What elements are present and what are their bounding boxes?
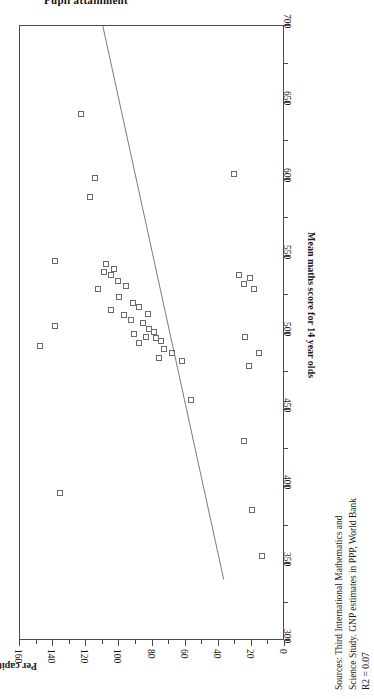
data-point — [115, 278, 121, 284]
score-tick-label: 700 — [282, 14, 292, 28]
gnp-minor-tick — [135, 640, 136, 644]
data-point — [156, 355, 162, 361]
data-point — [103, 261, 109, 267]
score-minor-tick — [284, 525, 288, 526]
data-point — [108, 272, 114, 278]
data-point — [136, 304, 142, 310]
data-point — [95, 286, 101, 292]
data-point — [236, 272, 242, 278]
sources-line-2: Science Study. GNP estimates in PPP, Wor… — [347, 498, 361, 690]
gnp-tick-label: 100 — [112, 649, 122, 663]
data-point — [52, 258, 58, 264]
score-minor-tick — [284, 602, 288, 603]
score-tick-label: 450 — [282, 398, 292, 412]
gnp-tick — [185, 640, 186, 646]
score-tick-label: 650 — [282, 91, 292, 105]
gnp-minor-tick — [69, 640, 70, 644]
score-minor-tick — [284, 294, 288, 295]
sources-line-3: R2 = 0.07 — [360, 498, 374, 690]
data-point — [37, 343, 43, 349]
data-point — [136, 340, 142, 346]
score-minor-tick — [284, 448, 288, 449]
data-point — [251, 286, 257, 292]
data-point — [123, 283, 129, 289]
data-point — [87, 194, 93, 200]
data-point — [161, 346, 167, 352]
data-point — [57, 490, 63, 496]
gnp-minor-tick — [168, 640, 169, 644]
data-point — [169, 350, 175, 356]
sources-block: Sources: Third International Mathematics… — [333, 498, 374, 690]
gnp-minor-tick — [102, 640, 103, 644]
gnp-tick — [52, 640, 53, 646]
score-tick-label: 550 — [282, 245, 292, 259]
data-point — [241, 281, 247, 287]
score-tick-label: 500 — [282, 322, 292, 336]
score-minor-tick — [284, 371, 288, 372]
score-tick-label: 600 — [282, 168, 292, 182]
data-point — [151, 329, 157, 335]
gnp-tick — [152, 640, 153, 646]
score-minor-tick — [284, 63, 288, 64]
plot-area — [19, 25, 284, 640]
score-tick-label: 350 — [282, 552, 292, 566]
data-point — [108, 307, 114, 313]
gnp-tick — [251, 640, 252, 646]
score-tick-label: 400 — [282, 475, 292, 489]
data-point — [52, 323, 58, 329]
gnp-minor-tick — [36, 640, 37, 644]
gnp-minor-tick — [234, 640, 235, 644]
data-point — [140, 320, 146, 326]
data-point — [231, 171, 237, 177]
data-point — [241, 438, 247, 444]
data-point — [128, 317, 134, 323]
data-point — [242, 334, 248, 340]
score-minor-tick — [284, 140, 288, 141]
data-point — [179, 358, 185, 364]
gnp-tick-label: 0 — [278, 649, 288, 654]
gnp-minor-tick — [267, 640, 268, 644]
data-point — [188, 397, 194, 403]
data-point — [247, 275, 253, 281]
gnp-tick-label: 40 — [212, 649, 222, 659]
data-point — [130, 300, 136, 306]
data-layer — [20, 26, 283, 639]
score-axis: 300350400450500550600650700 — [284, 25, 285, 640]
gnp-tick-label: 140 — [46, 649, 56, 663]
data-point — [101, 269, 107, 275]
gnp-axis: 020406080100120140160 — [19, 640, 284, 641]
gnp-tick — [284, 640, 285, 646]
data-point — [131, 331, 137, 337]
data-point — [145, 311, 151, 317]
gnp-tick-label: 20 — [245, 649, 255, 659]
gnp-axis-title: Per capita GNP in 1994 relative to UK = … — [0, 661, 37, 672]
gnp-tick — [118, 640, 119, 646]
data-point — [246, 363, 252, 369]
data-point — [111, 266, 117, 272]
gnp-tick — [85, 640, 86, 646]
data-point — [92, 175, 98, 181]
gnp-minor-tick — [201, 640, 202, 644]
data-point — [249, 507, 255, 513]
gnp-tick — [19, 640, 20, 646]
data-point — [78, 111, 84, 117]
gnp-tick — [218, 640, 219, 646]
data-point — [158, 338, 164, 344]
clipped-heading: Pupil attainment — [44, 0, 244, 6]
data-point — [143, 334, 149, 340]
data-point — [256, 350, 262, 356]
score-axis-title: Mean maths score for 14 year olds — [306, 232, 317, 378]
gnp-tick-label: 120 — [79, 649, 89, 663]
gnp-tick-label: 60 — [179, 649, 189, 659]
sources-line-1: Sources: Third International Mathematics… — [333, 498, 347, 690]
chart-page: Pupil attainment 30035040045050055060065… — [0, 0, 374, 699]
data-point — [121, 312, 127, 318]
score-minor-tick — [284, 217, 288, 218]
data-point — [116, 294, 122, 300]
data-point — [259, 553, 265, 559]
gnp-tick-label: 80 — [146, 649, 156, 659]
